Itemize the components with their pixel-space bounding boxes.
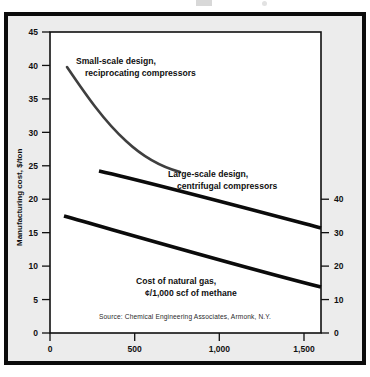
left-tick-0: 0 xyxy=(33,328,38,338)
annotation-large-scale-line2: centrifugal compressors xyxy=(177,181,278,191)
x-tick-500: 500 xyxy=(128,344,142,354)
x-tick-1000: 1,000 xyxy=(209,344,231,354)
left-tick-25: 25 xyxy=(29,161,39,171)
x-axis-tick-labels: 0 500 1,000 1,500 xyxy=(48,344,315,354)
annotation-small-scale-line2: reciprocating compressors xyxy=(85,68,196,78)
figure-frame: 45 40 35 30 25 20 15 10 5 0 40 xyxy=(4,12,366,365)
y-axis-title: Manufacturing cost, $/ton xyxy=(15,149,24,246)
right-tick-10: 10 xyxy=(334,295,344,305)
right-tick-40: 40 xyxy=(334,194,344,204)
left-tick-40: 40 xyxy=(29,61,39,71)
left-axis-tick-labels: 45 40 35 30 25 20 15 10 5 0 xyxy=(29,27,39,338)
annotation-natural-gas-line1: Cost of natural gas, xyxy=(136,276,216,286)
caption-fragment-right xyxy=(262,1,267,6)
chart-canvas: 45 40 35 30 25 20 15 10 5 0 40 xyxy=(8,16,362,361)
right-tick-30: 30 xyxy=(334,228,344,238)
left-tick-15: 15 xyxy=(29,228,39,238)
left-tick-10: 10 xyxy=(29,261,39,271)
annotation-small-scale-line1: Small-scale design, xyxy=(76,56,156,66)
right-axis-ticks xyxy=(321,199,329,333)
right-axis-tick-labels: 40 30 20 10 0 xyxy=(334,194,344,338)
x-tick-1500: 1,500 xyxy=(293,344,315,354)
caption-fragment-left xyxy=(196,0,212,6)
annotation-natural-gas-line2: ¢/1,000 scf of methane xyxy=(145,288,237,298)
left-tick-5: 5 xyxy=(33,295,38,305)
right-tick-0: 0 xyxy=(334,328,339,338)
left-tick-30: 30 xyxy=(29,128,39,138)
x-tick-0: 0 xyxy=(48,344,53,354)
right-tick-20: 20 xyxy=(334,261,344,271)
left-tick-35: 35 xyxy=(29,94,39,104)
cut-off-caption-artifacts xyxy=(0,0,370,11)
left-axis-ticks xyxy=(42,32,50,333)
left-tick-20: 20 xyxy=(29,194,39,204)
x-axis-title: Tons of ammonia/day xyxy=(144,359,226,361)
left-tick-45: 45 xyxy=(29,27,39,37)
source-note: Source: Chemical Engineering Associates,… xyxy=(99,313,271,321)
annotation-large-scale-line1: Large-scale design, xyxy=(168,169,248,179)
x-axis-ticks xyxy=(50,333,304,341)
